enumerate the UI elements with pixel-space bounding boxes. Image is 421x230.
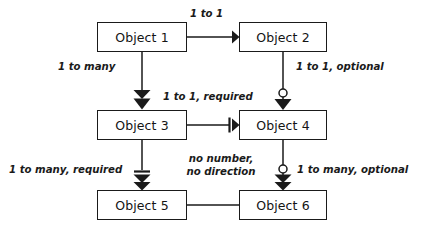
node-label: Object 6 xyxy=(256,198,309,213)
edge-label-line-2: no direction xyxy=(173,166,269,179)
edge-label-object1-object3: 1 to many xyxy=(58,61,115,74)
edge-label-object3-object5: 1 to many, required xyxy=(9,164,122,177)
optional-circle-icon xyxy=(279,89,287,97)
arrowhead-many-icon-lower xyxy=(134,99,151,110)
edge-label-object3-object4: 1 to 1, required xyxy=(163,91,253,104)
connector-object3-object5 xyxy=(134,140,151,191)
node-label: Object 2 xyxy=(256,30,309,45)
connector-object1-object3 xyxy=(134,52,151,110)
node-label: Object 4 xyxy=(256,118,309,133)
node-object-4[interactable]: Object 4 xyxy=(239,110,327,140)
edge-label-object1-object2: 1 to 1 xyxy=(190,8,223,21)
node-object-5[interactable]: Object 5 xyxy=(97,190,187,220)
arrowhead-many-icon-upper xyxy=(275,175,292,184)
edge-label-line-1: no number, xyxy=(173,153,269,166)
node-object-1[interactable]: Object 1 xyxy=(97,22,187,52)
node-label: Object 3 xyxy=(115,118,168,133)
diagram-connectors xyxy=(0,0,421,230)
edge-label-object2-object4: 1 to 1, optional xyxy=(296,61,384,74)
connector-object2-object4 xyxy=(275,52,292,110)
node-object-6[interactable]: Object 6 xyxy=(239,190,327,220)
edge-label-object5-object6: no number, no direction xyxy=(173,153,269,178)
diagram-canvas: Object 1 Object 2 Object 3 Object 4 Obje… xyxy=(0,0,421,230)
arrowhead-many-icon-upper xyxy=(134,175,151,184)
node-label: Object 1 xyxy=(115,30,168,45)
edge-label-object4-object6: 1 to many, optional xyxy=(297,164,408,177)
optional-circle-icon xyxy=(279,165,287,173)
node-label: Object 5 xyxy=(115,198,168,213)
node-object-3[interactable]: Object 3 xyxy=(97,110,187,140)
connector-object3-object4 xyxy=(187,118,240,133)
connector-object1-object2 xyxy=(187,31,240,44)
connector-object4-object6 xyxy=(275,140,292,191)
arrowhead-many-icon-upper xyxy=(134,90,151,99)
node-object-2[interactable]: Object 2 xyxy=(239,22,327,52)
arrowhead-one-icon xyxy=(275,99,292,110)
